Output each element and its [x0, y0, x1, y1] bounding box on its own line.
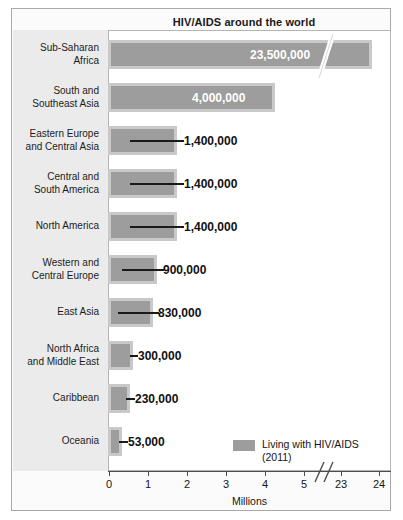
- x-axis-tick-label: 24: [373, 478, 385, 490]
- x-axis-tick: [226, 471, 227, 476]
- value-leader-line: [130, 183, 184, 185]
- bar-value-label: 53,000: [128, 427, 165, 456]
- x-axis-tick: [341, 471, 342, 476]
- bar-row: Sub-SaharanAfrica23,500,000: [12, 33, 391, 76]
- bar-row: Western andCentral Europe900,000: [12, 248, 391, 291]
- category-label-line: Southeast Asia: [32, 98, 99, 111]
- chart-figure: HIV/AIDS around the world Sub-SaharanAfr…: [11, 8, 391, 511]
- category-label: Caribbean: [12, 377, 103, 420]
- category-label-line: Sub-Saharan: [40, 42, 99, 55]
- value-leader-line: [130, 355, 138, 357]
- bar: [108, 40, 372, 69]
- bar-value-label: 830,000: [158, 298, 201, 327]
- category-label-line: Caribbean: [53, 392, 99, 405]
- bar-value-label: 300,000: [138, 341, 181, 370]
- category-label-line: Eastern Europe: [30, 128, 100, 141]
- bar-fill: [111, 387, 127, 410]
- x-axis-tick: [148, 471, 149, 476]
- category-label: East Asia: [12, 291, 103, 334]
- category-label-line: Oceania: [62, 435, 99, 448]
- category-label-line: South America: [34, 184, 99, 197]
- category-label: North Africaand Middle East: [12, 334, 103, 377]
- chart-title: HIV/AIDS around the world: [108, 12, 380, 32]
- x-axis-break-icon: [306, 461, 340, 483]
- value-leader-line: [118, 312, 159, 314]
- value-leader-line: [122, 269, 164, 271]
- x-axis-line: [108, 471, 391, 472]
- bar-value-label: 1,400,000: [184, 212, 237, 241]
- category-label: South andSoutheast Asia: [12, 76, 103, 119]
- x-axis-tick-label: 2: [184, 478, 190, 490]
- bar-row: Central andSouth America1,400,000: [12, 162, 391, 205]
- value-leader-line: [130, 226, 184, 228]
- category-label: Eastern Europeand Central Asia: [12, 119, 103, 162]
- category-label-line: Central and: [47, 171, 99, 184]
- category-label-line: and Central Asia: [26, 141, 99, 154]
- value-leader-line: [130, 140, 184, 142]
- bar-row: North Africaand Middle East300,000: [12, 334, 391, 377]
- bar-value-label: 4,000,000: [192, 83, 245, 112]
- x-axis-title: Millions: [108, 495, 391, 507]
- bar-value-label: 900,000: [163, 255, 206, 284]
- category-label-line: North America: [36, 220, 99, 233]
- legend-swatch: [233, 440, 255, 451]
- bar-row: South andSoutheast Asia4,000,000: [12, 76, 391, 119]
- value-leader-line: [126, 398, 135, 400]
- bar-row: Caribbean230,000: [12, 377, 391, 420]
- x-axis-tick: [379, 471, 380, 476]
- x-axis-tick: [109, 471, 110, 476]
- bar-value-label: 1,400,000: [184, 126, 237, 155]
- bar-fill: [111, 344, 130, 367]
- x-axis-tick-label: 3: [223, 478, 229, 490]
- category-label: North America: [12, 205, 103, 248]
- bar-row: North America1,400,000: [12, 205, 391, 248]
- category-label-line: Western and: [42, 257, 99, 270]
- value-leader-line: [119, 441, 128, 443]
- category-label: Central andSouth America: [12, 162, 103, 205]
- bar-value-label: 23,500,000: [250, 40, 310, 69]
- category-label-line: and Middle East: [27, 356, 99, 369]
- chart-legend: Living with HIV/AIDS (2011): [233, 438, 359, 463]
- category-label-line: South and: [53, 85, 99, 98]
- bar-row: East Asia830,000: [12, 291, 391, 334]
- category-label: Sub-SaharanAfrica: [12, 33, 103, 76]
- category-label-line: North Africa: [47, 343, 99, 356]
- legend-label: Living with HIV/AIDS (2011): [262, 438, 359, 463]
- bar-fill: [111, 43, 369, 66]
- bar-fill: [111, 430, 119, 453]
- category-label-line: East Asia: [57, 306, 99, 319]
- bar-row: Eastern Europeand Central Asia1,400,000: [12, 119, 391, 162]
- x-axis-tick: [187, 471, 188, 476]
- legend-label-line2: (2011): [262, 451, 359, 464]
- category-label-line: Africa: [73, 55, 99, 68]
- x-axis-tick-label: 4: [262, 478, 268, 490]
- legend-label-line1: Living with HIV/AIDS: [262, 438, 359, 451]
- bar-rows: Sub-SaharanAfrica23,500,000South andSout…: [12, 30, 391, 471]
- x-axis-tick-label: 1: [145, 478, 151, 490]
- category-label: Western andCentral Europe: [12, 248, 103, 291]
- category-label-line: Central Europe: [32, 270, 99, 283]
- bar-value-label: 1,400,000: [184, 169, 237, 198]
- category-label: Oceania: [12, 420, 103, 463]
- x-axis-tick: [265, 471, 266, 476]
- bar-value-label: 230,000: [135, 384, 178, 413]
- x-axis-tick-label: 0: [106, 478, 112, 490]
